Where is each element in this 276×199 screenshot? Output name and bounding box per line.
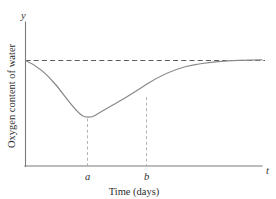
oxygen-content-chart: y t a b Time (days) Oxygen content of wa… xyxy=(0,0,276,199)
y-axis-tip-label: y xyxy=(20,10,26,21)
xtick-label-b: b xyxy=(144,171,149,182)
oxygen-content-curve xyxy=(26,60,263,117)
xtick-label-a: a xyxy=(85,171,90,182)
y-axis-title: Oxygen content of water xyxy=(6,43,17,148)
x-axis-title: Time (days) xyxy=(109,186,160,198)
x-axis-tip-label: t xyxy=(266,165,270,176)
chart-canvas: y t a b Time (days) Oxygen content of wa… xyxy=(0,0,276,199)
